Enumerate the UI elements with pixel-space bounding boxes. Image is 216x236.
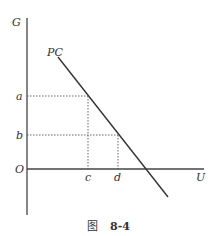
x-tick-d: d: [114, 171, 121, 184]
y-axis-label: G: [12, 16, 21, 29]
curve-label: PC: [46, 46, 63, 59]
caption-prefix: 图: [87, 220, 98, 233]
y-tick-b: b: [16, 129, 23, 142]
origin-label: O: [15, 163, 24, 176]
y-tick-a: a: [16, 90, 23, 103]
x-tick-c: c: [85, 171, 91, 184]
pc-curve: [58, 57, 168, 197]
x-axis-label: U: [196, 171, 206, 184]
caption-number: 8-4: [110, 220, 130, 233]
diagram-figure: G PC a b O c d U 图 8-4: [0, 0, 216, 236]
